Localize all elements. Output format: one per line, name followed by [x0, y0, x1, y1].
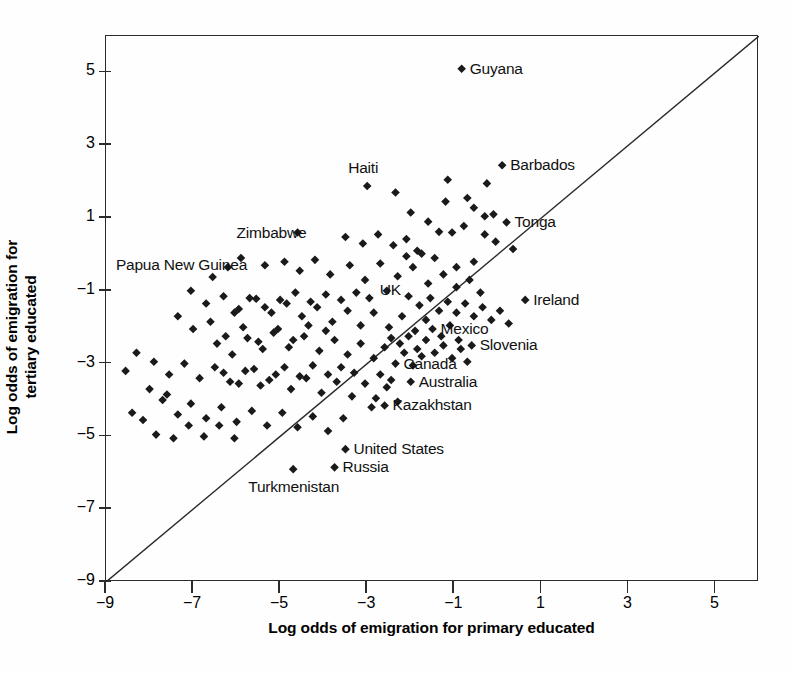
scatter-point — [363, 182, 372, 191]
scatter-point — [261, 303, 270, 312]
scatter-point — [332, 378, 341, 387]
scatter-point — [206, 317, 215, 326]
scatter-point — [219, 292, 228, 301]
point-label-russia: Russia — [343, 458, 389, 476]
scatter-point — [234, 379, 243, 388]
scatter-point — [489, 210, 498, 219]
scatter-point — [139, 416, 148, 425]
plot-area — [105, 35, 758, 581]
chart-figure: Log odds of emigration for tertiary educ… — [0, 0, 790, 674]
point-label-ireland: Ireland — [533, 291, 579, 309]
scatter-point — [180, 359, 189, 368]
scatter-point — [457, 64, 466, 73]
point-label-united-states: United States — [353, 440, 443, 458]
scatter-point — [345, 261, 354, 270]
scatter-point — [509, 245, 518, 254]
scatter-point — [480, 230, 489, 239]
scatter-point — [230, 434, 239, 443]
x-tick-mark — [278, 581, 280, 593]
scatter-point — [213, 339, 222, 348]
scatter-point — [426, 294, 435, 303]
identity-reference-line — [106, 36, 759, 582]
y-tick-label: 5 — [51, 61, 95, 79]
scatter-point — [396, 339, 405, 348]
scatter-point — [402, 252, 411, 261]
point-label-papua-new-guinea: Papua New Guinea — [116, 256, 247, 274]
x-tick-mark — [452, 581, 454, 593]
scatter-point — [311, 256, 320, 265]
scatter-point — [221, 332, 230, 341]
scatter-point — [382, 383, 391, 392]
scatter-point — [169, 434, 178, 443]
scatter-point — [121, 367, 130, 376]
scatter-point — [463, 194, 472, 203]
point-label-canada: Canada — [403, 355, 456, 373]
scatter-point — [187, 399, 196, 408]
scatter-point — [452, 263, 461, 272]
scatter-point — [211, 363, 220, 372]
scatter-point — [228, 350, 237, 359]
y-tick-label: −3 — [51, 353, 95, 371]
scatter-point — [406, 378, 415, 387]
scatter-point — [317, 388, 326, 397]
x-tick-label: 5 — [692, 594, 736, 612]
scatter-point — [443, 175, 452, 184]
scatter-point — [361, 276, 370, 285]
scatter-point — [217, 403, 226, 412]
scatter-point — [404, 332, 413, 341]
scatter-point — [365, 294, 374, 303]
scatter-point — [359, 239, 368, 248]
scatter-point — [350, 368, 359, 377]
scatter-point — [174, 312, 183, 321]
scatter-point — [456, 345, 465, 354]
scatter-point — [245, 294, 254, 303]
scatter-point — [285, 343, 294, 352]
y-tick-label: 1 — [51, 207, 95, 225]
point-label-turkmenistan: Turkmenistan — [248, 478, 339, 496]
scatter-point — [322, 290, 331, 299]
scatter-point — [289, 465, 298, 474]
scatter-point — [324, 427, 333, 436]
scatter-point — [202, 414, 211, 423]
scatter-point — [184, 421, 193, 430]
scatter-point — [480, 212, 489, 221]
scatter-point — [330, 463, 339, 472]
scatter-point — [226, 378, 235, 387]
scatter-point — [435, 307, 444, 316]
scatter-point — [430, 254, 439, 263]
y-tick-mark — [99, 507, 111, 509]
scatter-point — [387, 376, 396, 385]
scatter-point — [298, 312, 307, 321]
scatter-point — [461, 299, 470, 308]
scatter-point — [232, 418, 241, 427]
scatter-point — [343, 350, 352, 359]
scatter-point — [470, 204, 479, 213]
scatter-point — [428, 325, 437, 334]
point-label-haiti: Haiti — [348, 159, 378, 177]
scatter-point — [343, 307, 352, 316]
scatter-point — [498, 161, 507, 170]
y-tick-label: −5 — [51, 425, 95, 443]
scatter-point — [380, 401, 389, 410]
x-tick-mark — [104, 581, 106, 593]
scatter-point — [404, 292, 413, 301]
scatter-point — [254, 337, 263, 346]
y-tick-label: −1 — [51, 280, 95, 298]
scatter-point — [165, 370, 174, 379]
x-tick-mark — [627, 581, 629, 593]
scatter-point — [261, 261, 270, 270]
point-label-slovenia: Slovenia — [480, 336, 538, 354]
scatter-point — [374, 230, 383, 239]
x-tick-label: 1 — [518, 594, 562, 612]
scatter-point — [145, 385, 154, 394]
scatter-point — [504, 319, 513, 328]
scatter-point — [367, 403, 376, 412]
y-tick-mark — [99, 289, 111, 291]
scatter-point — [452, 283, 461, 292]
scatter-point — [415, 301, 424, 310]
point-label-zimbabwe: Zimbabwe — [237, 224, 307, 242]
x-tick-mark — [365, 581, 367, 593]
x-tick-mark — [191, 581, 193, 593]
scatter-point — [402, 235, 411, 244]
scatter-point — [409, 263, 418, 272]
